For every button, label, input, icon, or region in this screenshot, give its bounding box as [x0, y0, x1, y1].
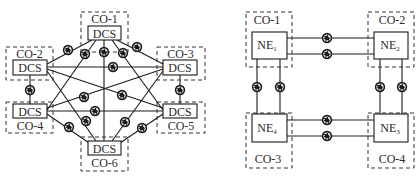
- fiber-spool-icon: [252, 82, 262, 92]
- node-co-6: DCS CO-6: [81, 137, 128, 171]
- co-label: CO-3: [255, 152, 282, 166]
- co-label: CO-5: [168, 119, 195, 133]
- co-label: CO-4: [379, 152, 406, 166]
- node-co-3: CO-3 DCS: [157, 47, 205, 80]
- node-ring-co-1: CO-1 NE1: [246, 12, 292, 67]
- co-label: CO-3: [167, 47, 194, 61]
- fiber-spool-icon: [108, 62, 118, 72]
- node-co-4: DCS CO-4: [6, 102, 53, 133]
- fiber-spool-icon: [79, 92, 89, 102]
- co-label: CO-2: [379, 13, 406, 27]
- fiber-spool-icon: [137, 123, 147, 133]
- right-ring-diagram: CO-1 NE1 CO-2 NE2 NE4 CO-3 NE3 CO-4: [246, 12, 414, 168]
- node-co-2: CO-2 DCS: [6, 47, 53, 80]
- fiber-spool-icon: [397, 82, 407, 92]
- fiber-spool-icon: [175, 85, 185, 95]
- fiber-spool-icon: [120, 117, 130, 127]
- node-ring-co-4: NE3 CO-4: [368, 113, 414, 168]
- co-label: CO-1: [91, 12, 118, 26]
- fiber-spool-icon: [322, 33, 332, 43]
- dcs-label: DCS: [168, 105, 191, 119]
- dcs-label: DCS: [18, 61, 41, 75]
- dcs-label: DCS: [93, 27, 116, 41]
- fiber-spool-icon: [117, 90, 127, 100]
- fiber-spool-icon: [375, 82, 385, 92]
- fiber-spool-icon: [132, 42, 142, 52]
- node-ring-co-2: CO-2 NE2: [368, 12, 414, 67]
- fiber-spool-icon: [322, 115, 332, 125]
- fiber-spool-icon: [64, 122, 74, 132]
- fiber-spool-icon: [90, 106, 100, 116]
- fiber-spool-icon: [63, 45, 73, 55]
- fiber-spool-icon: [275, 82, 285, 92]
- fiber-spool-icon: [25, 85, 35, 95]
- co-label: CO-4: [17, 119, 44, 133]
- dcs-label: DCS: [168, 61, 191, 75]
- fiber-spool-icon: [118, 48, 128, 58]
- node-co-5: DCS CO-5: [157, 102, 205, 133]
- fiber-spool-icon: [322, 49, 332, 59]
- fiber-spool-icon: [322, 131, 332, 141]
- left-mesh-diagram: CO-1 DCS CO-2 DCS CO-3 DCS DCS CO-4: [6, 12, 205, 171]
- dcs-label: DCS: [93, 142, 116, 156]
- network-diagrams: CO-1 DCS CO-2 DCS CO-3 DCS DCS CO-4: [0, 0, 420, 177]
- fiber-spool-icons: [25, 42, 185, 133]
- dcs-label: DCS: [18, 105, 41, 119]
- co-label: CO-6: [91, 156, 118, 170]
- fiber-spool-icon: [81, 116, 91, 126]
- co-label: CO-1: [254, 13, 281, 27]
- co-label: CO-2: [16, 47, 43, 61]
- node-ring-co-3: NE4 CO-3: [246, 113, 292, 168]
